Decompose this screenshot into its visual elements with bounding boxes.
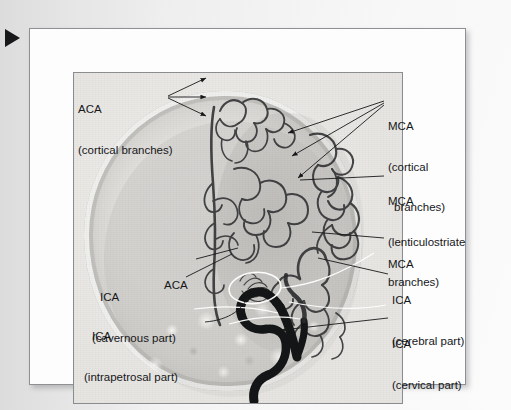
figure-page: ACA (cortical branches) MCA (cortical br… xyxy=(0,0,511,410)
radiograph-frame xyxy=(73,72,403,404)
vascular-tree xyxy=(74,73,402,403)
play-triangle-marker-icon xyxy=(5,29,20,47)
figure-outer-frame xyxy=(29,28,466,385)
cerebral-angiogram-image xyxy=(74,73,402,403)
